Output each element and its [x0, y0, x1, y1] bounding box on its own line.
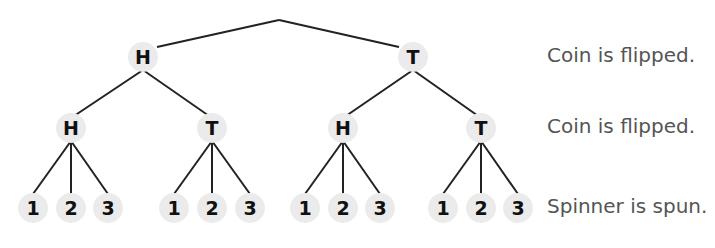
- tree-edge: [143, 70, 212, 118]
- tree-node-l2-tt: T: [466, 113, 496, 143]
- tree-node-l3-th3: 3: [365, 193, 395, 223]
- tree-edge: [413, 70, 481, 118]
- tree-edge: [343, 141, 380, 194]
- tree-edge: [212, 141, 250, 194]
- tree-node-l2-ht: T: [197, 113, 227, 143]
- tree-node-l3-th1: 1: [290, 193, 320, 223]
- tree-node-l3-tt2: 2: [466, 193, 496, 223]
- stage-label: Coin is flipped.: [547, 43, 695, 67]
- stage-label: Coin is flipped.: [547, 114, 695, 138]
- tree-node-l3-hh2: 2: [56, 193, 86, 223]
- tree-node-l3-ht1: 1: [159, 193, 189, 223]
- tree-edge: [33, 141, 71, 194]
- tree-edge: [71, 141, 108, 194]
- tree-edge: [71, 70, 143, 118]
- tree-node-l2-th: H: [328, 113, 358, 143]
- tree-node-l3-tt3: 3: [503, 193, 533, 223]
- tree-node-l2-hh: H: [56, 113, 86, 143]
- tree-node-l3-hh3: 3: [93, 193, 123, 223]
- tree-node-l3-ht2: 2: [197, 193, 227, 223]
- tree-edge: [157, 20, 279, 47]
- tree-node-l3-tt1: 1: [428, 193, 458, 223]
- tree-edge: [481, 141, 518, 194]
- stage-label: Spinner is spun.: [547, 194, 707, 218]
- tree-node-l3-hh1: 1: [18, 193, 48, 223]
- tree-edge: [305, 141, 343, 194]
- tree-edge: [174, 141, 212, 194]
- tree-node-l1-t: T: [398, 42, 428, 72]
- tree-node-l3-th2: 2: [328, 193, 358, 223]
- tree-edge: [443, 141, 481, 194]
- tree-edge: [279, 20, 399, 47]
- tree-edge: [343, 70, 413, 118]
- tree-node-l3-ht3: 3: [235, 193, 265, 223]
- tree-node-l1-h: H: [128, 42, 158, 72]
